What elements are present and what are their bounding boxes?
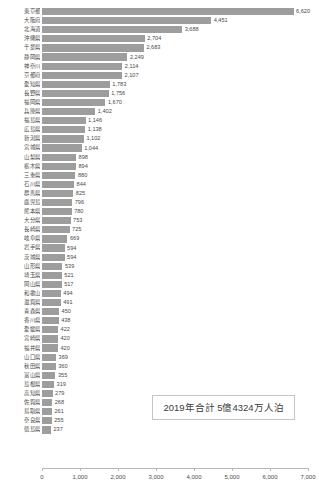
bar-wrapper: 880 [42, 172, 87, 179]
bar-chart: 東京都6,620大阪府4,451北海道3,688沖縄県2,704千葉県2,683… [0, 0, 319, 490]
category-label: 高知県 [0, 390, 40, 397]
bar [42, 308, 59, 315]
bar-wrapper: 517 [42, 281, 73, 288]
bar-row: 福島県1,146 [0, 116, 319, 125]
bar-value-label: 422 [61, 326, 70, 333]
bar-wrapper: 438 [42, 317, 70, 324]
category-label: 千葉県 [0, 44, 40, 51]
category-label: 山口県 [0, 354, 40, 361]
bar-value-label: 2,107 [125, 72, 139, 79]
category-label: 広島県 [0, 126, 40, 133]
bar [42, 426, 51, 433]
bar-row: 香川県438 [0, 316, 319, 325]
category-label: 群馬県 [0, 190, 40, 197]
bar [42, 363, 56, 370]
bar-value-label: 355 [58, 372, 67, 379]
bar-wrapper: 539 [42, 263, 74, 270]
bar-value-label: 796 [75, 199, 84, 206]
bar-wrapper: 594 [42, 244, 76, 251]
category-label: 岡山県 [0, 281, 40, 288]
category-label: 秋田県 [0, 363, 40, 370]
bar-wrapper: 355 [42, 372, 67, 379]
category-label: 富山県 [0, 372, 40, 379]
bar-row: 長野県1,756 [0, 89, 319, 98]
bar-value-label: 594 [67, 245, 76, 252]
bar [42, 26, 182, 33]
bar-wrapper: 1,138 [42, 126, 102, 133]
bar-wrapper: 669 [42, 235, 79, 242]
category-label: 兵庫県 [0, 108, 40, 115]
bar [42, 17, 211, 24]
bar-value-label: 3,688 [185, 26, 199, 33]
category-label: 静岡県 [0, 54, 40, 61]
bar-wrapper: 6,620 [42, 8, 310, 15]
bar-value-label: 279 [55, 390, 64, 397]
bar [42, 317, 59, 324]
bar-wrapper: 1,402 [42, 108, 112, 115]
bar-wrapper: 2,683 [42, 44, 160, 51]
bar-row: 青森県450 [0, 307, 319, 316]
bar-value-label: 255 [54, 417, 63, 424]
bar [42, 399, 52, 406]
bar-value-label: 494 [63, 290, 72, 297]
bar [42, 126, 85, 133]
category-label: 徳島県 [0, 426, 40, 433]
bar [42, 108, 95, 115]
x-axis-line [42, 468, 308, 469]
bar-wrapper: 268 [42, 399, 64, 406]
x-tick-mark [194, 468, 195, 471]
category-label: 福岡県 [0, 99, 40, 106]
category-label: 宮城県 [0, 144, 40, 151]
bar-wrapper: 894 [42, 163, 88, 170]
bar [42, 135, 84, 142]
bar [42, 172, 75, 179]
bar-wrapper: 1,783 [42, 81, 126, 88]
bar-value-label: 753 [73, 217, 82, 224]
bar-wrapper: 369 [42, 354, 68, 361]
bar-value-label: 491 [63, 299, 72, 306]
bar-value-label: 844 [77, 181, 86, 188]
category-label: 香川県 [0, 317, 40, 324]
x-axis: 01,0002,0003,0004,0005,0006,0007,000 [42, 468, 308, 488]
bar-wrapper: 261 [42, 408, 64, 415]
bar-value-label: 894 [78, 163, 87, 170]
category-label: 神奈川 [0, 63, 40, 70]
bar [42, 8, 294, 15]
bar-wrapper: 2,704 [42, 35, 161, 42]
bar-row: 山形県539 [0, 262, 319, 271]
bar [42, 263, 62, 270]
bar-row: 鹿児島796 [0, 198, 319, 207]
bar-value-label: 369 [59, 354, 68, 361]
bar [42, 154, 76, 161]
category-label: 鹿児島 [0, 199, 40, 206]
bar-value-label: 880 [78, 172, 87, 179]
bar [42, 199, 72, 206]
bar-value-label: 1,783 [112, 81, 126, 88]
bar [42, 381, 54, 388]
bar-value-label: 319 [57, 381, 66, 388]
bar [42, 390, 53, 397]
category-label: 和歌山 [0, 290, 40, 297]
bar [42, 72, 122, 79]
x-tick-mark [156, 468, 157, 471]
bar-value-label: 780 [74, 208, 83, 215]
bar-value-label: 517 [64, 281, 73, 288]
bar-wrapper: 1,146 [42, 117, 102, 124]
bar-row: 京都府2,107 [0, 71, 319, 80]
category-label: 三重県 [0, 172, 40, 179]
bar-value-label: 360 [58, 363, 67, 370]
category-label: 福井県 [0, 345, 40, 352]
bar [42, 408, 52, 415]
category-label: 愛知県 [0, 81, 40, 88]
bar-wrapper: 844 [42, 181, 86, 188]
bar-value-label: 594 [67, 254, 76, 261]
bar-value-label: 1,138 [88, 126, 102, 133]
bar-value-label: 2,249 [130, 54, 144, 61]
bar-row: 大阪府4,451 [0, 16, 319, 25]
bar-value-label: 1,670 [108, 99, 122, 106]
bar-wrapper: 2,249 [42, 53, 144, 60]
category-label: 茨城県 [0, 254, 40, 261]
bar-wrapper: 420 [42, 344, 70, 351]
category-label: 新潟県 [0, 135, 40, 142]
bar-value-label: 420 [60, 345, 69, 352]
